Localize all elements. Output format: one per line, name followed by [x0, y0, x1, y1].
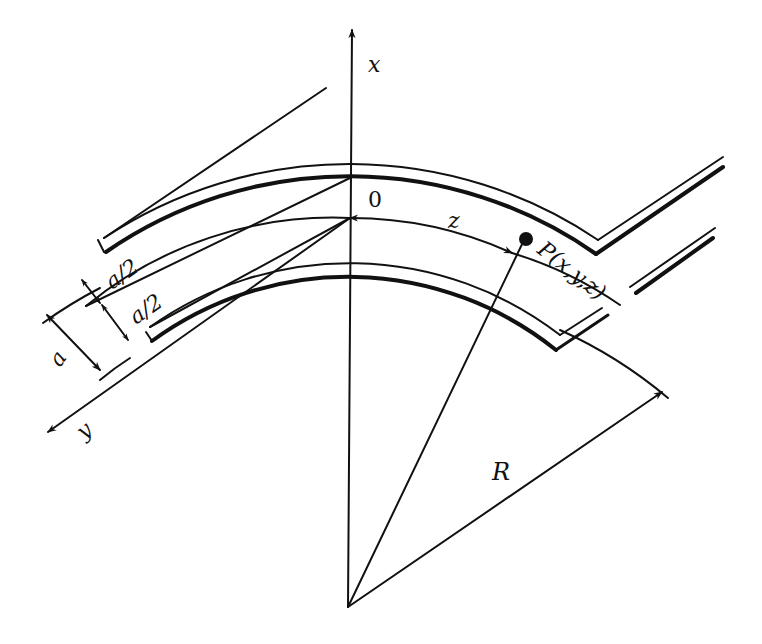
inner-wall-thin-arc [150, 263, 560, 335]
half-width-bottom-dimension [102, 305, 128, 340]
radius-label: R [491, 458, 510, 486]
half-width-top-label: a/2 [101, 254, 144, 294]
z-arrow-arc [350, 218, 512, 253]
radius-to-point-line [348, 238, 525, 607]
z-axis-label: z [447, 208, 460, 233]
inner-wall-thick-arc [152, 277, 556, 350]
width-label: a [44, 346, 72, 371]
radius-r-arrow [348, 392, 662, 607]
x-axis-label: x [368, 52, 381, 77]
point-p-dot [519, 232, 533, 246]
straight-inner-thick [636, 238, 713, 293]
straight-outer-thin [598, 157, 723, 240]
waveguide-diagram: x 0 z P(x,y,z) R a/2 a/2 a y [0, 0, 762, 644]
radius-reference-arc [560, 330, 668, 398]
point-label: P(x,y,z) [532, 236, 611, 305]
inner-wall-left-cap [146, 332, 152, 341]
origin-label: 0 [368, 187, 382, 212]
x-axis-line [348, 30, 352, 607]
y-axis-label: y [70, 416, 97, 444]
half-width-top-dimension [82, 280, 100, 303]
straight-inner-thin [630, 228, 715, 287]
straight-outer-thick [596, 167, 723, 254]
y-axis-line [48, 218, 350, 432]
tangent-guide-top [104, 88, 326, 238]
half-width-bottom-label: a/2 [125, 289, 168, 329]
tangent-guide-low [150, 218, 350, 327]
outer-wall-left-cap [98, 240, 104, 252]
